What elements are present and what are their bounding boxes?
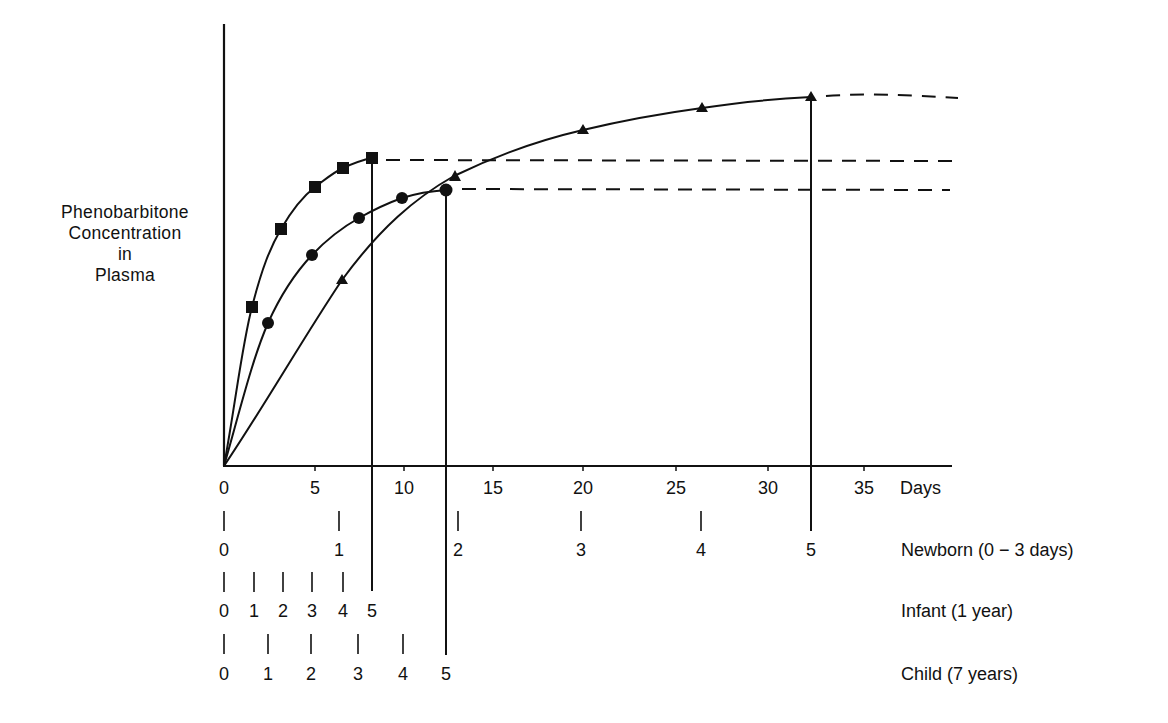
square-marker (309, 181, 321, 193)
child-markers (262, 184, 453, 330)
infant-tick-labels: 0 1 2 3 4 5 (219, 601, 377, 621)
svg-text:35: 35 (854, 478, 874, 498)
square-marker (275, 223, 287, 235)
svg-text:4: 4 (338, 601, 348, 621)
triangle-marker (805, 91, 817, 101)
newborn-markers (336, 91, 817, 284)
circle-marker (353, 212, 365, 224)
svg-text:5: 5 (310, 478, 320, 498)
svg-text:2: 2 (453, 540, 463, 560)
svg-text:30: 30 (758, 478, 778, 498)
newborn-curve (224, 97, 811, 466)
newborn-ticks (224, 511, 701, 531)
child-dash (462, 189, 950, 190)
svg-text:15: 15 (483, 478, 503, 498)
svg-text:25: 25 (666, 478, 686, 498)
svg-text:5: 5 (441, 664, 451, 684)
svg-text:20: 20 (573, 478, 593, 498)
infant-ticks (224, 572, 343, 592)
svg-text:0: 0 (219, 601, 229, 621)
svg-text:0: 0 (219, 664, 229, 684)
svg-text:1: 1 (334, 540, 344, 560)
infant-dash (386, 160, 958, 161)
svg-text:1: 1 (249, 601, 259, 621)
circle-marker (396, 192, 408, 204)
circle-marker (306, 249, 318, 261)
svg-text:5: 5 (806, 540, 816, 560)
svg-text:3: 3 (353, 664, 363, 684)
svg-text:2: 2 (306, 664, 316, 684)
svg-text:2: 2 (278, 601, 288, 621)
svg-text:4: 4 (696, 540, 706, 560)
square-marker (246, 301, 258, 313)
plot-area: 0 5 10 15 20 25 30 35 Days 0 1 2 3 4 5 N… (0, 0, 1168, 723)
svg-text:10: 10 (394, 478, 414, 498)
x-axis-unit-label: Days (900, 478, 941, 498)
svg-text:1: 1 (263, 664, 273, 684)
svg-text:0: 0 (219, 540, 229, 560)
svg-text:3: 3 (307, 601, 317, 621)
circle-marker (440, 184, 453, 197)
square-marker (337, 162, 349, 174)
child-row-label: Child (7 years) (901, 664, 1018, 684)
triangle-marker (449, 170, 461, 181)
newborn-row-label: Newborn (0 − 3 days) (901, 540, 1074, 560)
child-ticks (224, 634, 403, 654)
square-marker (366, 152, 378, 164)
svg-text:0: 0 (219, 478, 229, 498)
child-curve (224, 190, 446, 466)
infant-markers (246, 152, 378, 313)
svg-text:3: 3 (576, 540, 586, 560)
infant-row-label: Infant (1 year) (901, 601, 1013, 621)
svg-text:4: 4 (398, 664, 408, 684)
child-tick-labels: 0 1 2 3 4 5 (219, 664, 451, 684)
x-tick-labels: 0 5 10 15 20 25 30 35 (219, 478, 874, 498)
newborn-dash (826, 95, 958, 98)
circle-marker (262, 317, 274, 329)
newborn-tick-labels: 0 1 2 3 4 5 (219, 540, 816, 560)
steady-state-dashes (386, 95, 958, 190)
svg-text:5: 5 (367, 601, 377, 621)
